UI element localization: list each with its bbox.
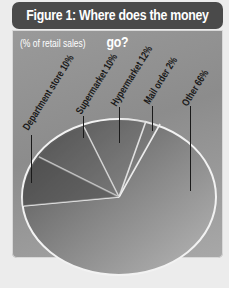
leader-mail-order xyxy=(152,106,153,131)
leader-other xyxy=(190,106,191,191)
leader-hypermarket xyxy=(119,107,120,143)
leader-supermarket xyxy=(83,116,84,138)
leader-department-store xyxy=(31,135,32,183)
